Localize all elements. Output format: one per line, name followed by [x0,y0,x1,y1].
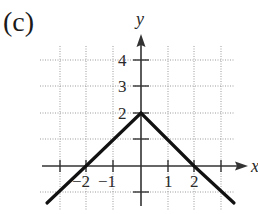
y-tick-label-3: 3 [118,77,127,96]
x-tick-label-2: 2 [190,172,199,191]
x-tick-label-neg2: −2 [72,172,90,191]
y-tick-label-2: 2 [118,104,127,123]
graph: y x 4 3 2 −2 −1 1 2 [0,0,258,214]
x-tick-label-neg1: −1 [98,172,116,191]
grid [40,46,234,210]
y-tick-label-4: 4 [118,51,127,70]
x-tick-label-1: 1 [164,172,173,191]
x-axis [42,160,248,172]
y-axis-label: y [134,9,144,29]
x-axis-label: x [250,156,258,176]
